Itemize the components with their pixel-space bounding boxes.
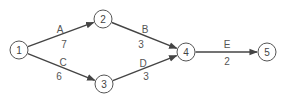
duration-label-b: 3 — [138, 39, 144, 50]
diagram-svg: 12345 A7B3C6D3E2 — [0, 0, 285, 99]
duration-label-a: 7 — [61, 39, 67, 50]
node-4: 4 — [177, 43, 195, 61]
node-label: 2 — [100, 14, 106, 25]
activity-network-diagram: 12345 A7B3C6D3E2 — [0, 0, 285, 99]
activity-label-d: D — [139, 58, 146, 69]
node-3: 3 — [95, 75, 113, 93]
node-2: 2 — [94, 10, 112, 28]
activity-label-e: E — [224, 39, 231, 50]
node-label: 1 — [16, 45, 22, 56]
duration-label-d: 3 — [143, 71, 149, 82]
node-1: 1 — [10, 41, 28, 59]
node-label: 5 — [264, 47, 270, 58]
node-label: 3 — [101, 79, 107, 90]
node-label: 4 — [183, 47, 189, 58]
activity-label-b: B — [142, 24, 149, 35]
duration-label-e: 2 — [224, 56, 230, 67]
duration-label-c: 6 — [56, 71, 62, 82]
node-5: 5 — [258, 43, 276, 61]
activity-label-c: C — [59, 57, 66, 68]
activity-label-a: A — [57, 24, 64, 35]
